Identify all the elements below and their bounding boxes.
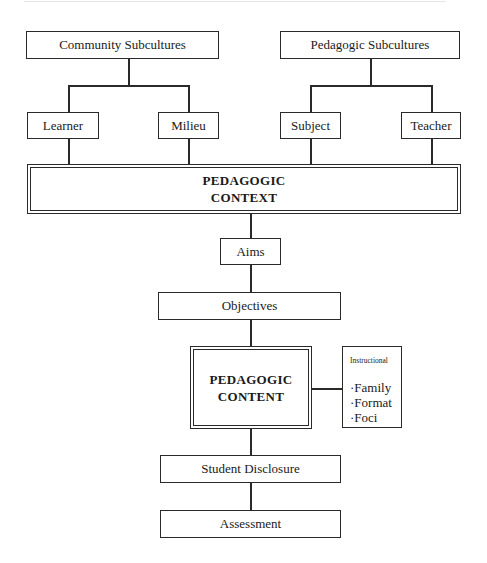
pedagogic-content-line2: CONTENT	[218, 388, 284, 405]
connector	[312, 388, 342, 390]
instructional-item-family: ·Family	[350, 380, 391, 395]
pedagogic-context-box: PEDAGOGIC CONTEXT	[27, 164, 461, 214]
aims-label: Aims	[236, 244, 264, 260]
pedagogic-context-line2: CONTEXT	[211, 189, 277, 206]
student-disclosure-label: Student Disclosure	[201, 461, 300, 477]
connector	[431, 139, 433, 164]
connector	[68, 85, 70, 112]
milieu-label: Milieu	[171, 118, 206, 134]
connector	[250, 483, 252, 510]
objectives-label: Objectives	[222, 298, 278, 314]
connector	[310, 85, 312, 112]
student-disclosure-box: Student Disclosure	[160, 455, 341, 483]
connector	[431, 85, 433, 112]
objectives-box: Objectives	[158, 292, 341, 320]
connector	[310, 85, 432, 87]
learner-label: Learner	[43, 118, 83, 134]
instructional-box: Instructional ·Family ·Format ·Foci	[342, 346, 402, 428]
connector	[310, 139, 312, 164]
pedagogic-subcultures-label: Pedagogic Subcultures	[311, 37, 430, 53]
subject-box: Subject	[280, 112, 341, 139]
connector	[250, 320, 252, 346]
teacher-box: Teacher	[401, 112, 461, 139]
instructional-item-foci: ·Foci	[350, 410, 377, 425]
assessment-label: Assessment	[220, 516, 281, 532]
pedagogic-content-box: PEDAGOGIC CONTENT	[190, 346, 312, 429]
instructional-heading: Instructional	[350, 353, 388, 368]
community-subcultures-label: Community Subcultures	[59, 37, 186, 53]
pedagogic-content-line1: PEDAGOGIC	[210, 371, 293, 388]
connector	[188, 139, 190, 164]
pedagogic-context-line1: PEDAGOGIC	[203, 172, 286, 189]
connector	[68, 139, 70, 164]
top-rule	[24, 1, 446, 2]
assessment-box: Assessment	[160, 510, 341, 538]
subject-label: Subject	[291, 118, 330, 134]
connector	[250, 429, 252, 455]
connector	[370, 59, 372, 86]
connector	[188, 85, 190, 112]
teacher-label: Teacher	[411, 118, 452, 134]
connector	[68, 85, 189, 87]
milieu-box: Milieu	[158, 112, 219, 139]
learner-box: Learner	[27, 112, 99, 139]
connector	[250, 265, 252, 292]
aims-box: Aims	[220, 238, 281, 265]
community-subcultures-box: Community Subcultures	[26, 31, 219, 59]
instructional-item-format: ·Format	[350, 395, 392, 410]
connector	[128, 59, 130, 86]
connector	[250, 214, 252, 238]
pedagogic-subcultures-box: Pedagogic Subcultures	[280, 31, 460, 59]
